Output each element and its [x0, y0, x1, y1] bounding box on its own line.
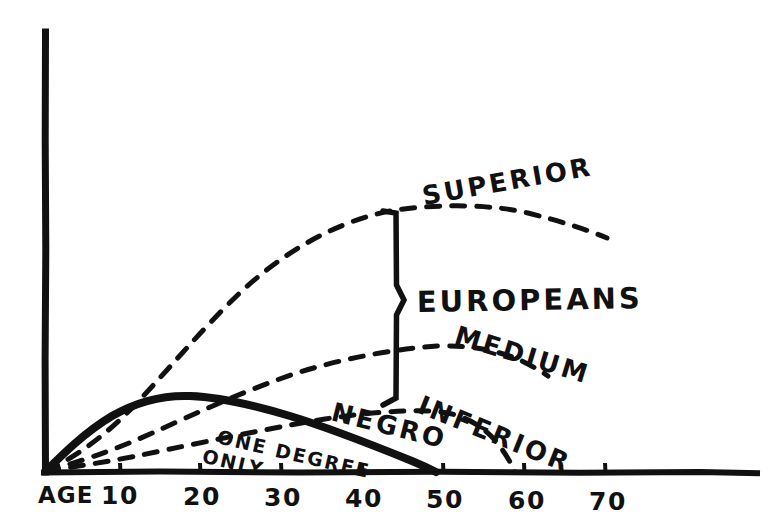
axis-group	[44, 32, 757, 473]
annotation-group: SUPERIOR MEDIUM INFERIOR EUROPEANS NEGRO…	[200, 151, 643, 503]
label-europeans: EUROPEANS	[417, 281, 644, 319]
y-axis-line	[45, 32, 46, 472]
x-tick-label-30: 30	[264, 483, 302, 512]
x-tick-70	[605, 463, 606, 472]
chart-canvas: SUPERIOR MEDIUM INFERIOR EUROPEANS NEGRO…	[0, 0, 778, 532]
x-axis-name: AGE	[38, 482, 93, 508]
hand-drawn-chart-figure: SUPERIOR MEDIUM INFERIOR EUROPEANS NEGRO…	[0, 0, 778, 532]
x-tick-label-60: 60	[508, 486, 546, 515]
x-tick-label-40: 40	[345, 484, 383, 513]
x-axis-label-group: AGE 10 20 30 40 50 60 70	[38, 481, 627, 516]
label-medium-text: MEDIUM	[451, 320, 594, 390]
x-tick-50	[443, 463, 444, 472]
label-europeans-text: EUROPEANS	[417, 281, 644, 319]
x-tick-label-50: 50	[426, 485, 464, 514]
label-superior: SUPERIOR	[420, 151, 595, 210]
x-axis-line	[44, 472, 757, 474]
x-tick-10	[120, 463, 121, 472]
label-medium: MEDIUM	[451, 320, 594, 390]
x-tick-label-70: 70	[589, 487, 627, 516]
x-tick-30	[281, 463, 282, 472]
x-tick-label-10: 10	[101, 481, 139, 510]
label-superior-text: SUPERIOR	[420, 151, 595, 210]
europeans-brace	[383, 211, 404, 405]
x-tick-label-20: 20	[183, 482, 221, 511]
brace-path	[383, 211, 404, 405]
